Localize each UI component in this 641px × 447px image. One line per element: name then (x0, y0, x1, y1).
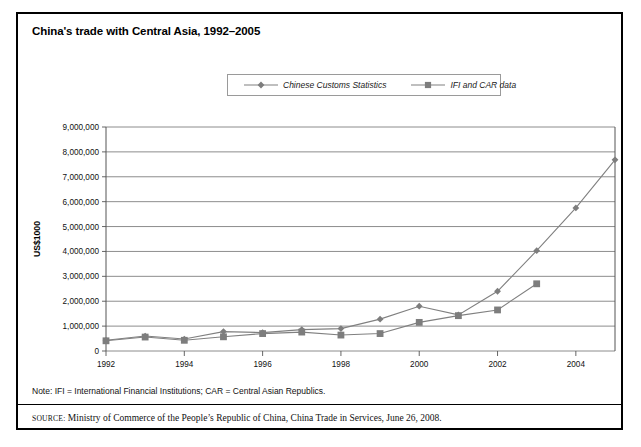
x-tick-label: 1992 (97, 360, 116, 367)
source-text: Ministry of Commerce of the People’s Rep… (68, 413, 442, 423)
legend-marker-square-icon (411, 80, 445, 90)
chart-plot-container: 01,000,0002,000,0003,000,0004,000,0005,0… (18, 102, 621, 367)
y-tick-label: 4,000,000 (63, 247, 100, 256)
x-tick-label: 2002 (488, 360, 507, 367)
legend-label-ifi-car: IFI and CAR data (450, 80, 516, 90)
legend-marker-diamond-icon (244, 80, 278, 90)
y-tick-label: 1,000,000 (63, 322, 100, 331)
figure-note: Note: IFI = International Financial Inst… (32, 386, 325, 396)
line-chart: 01,000,0002,000,0003,000,0004,000,0005,0… (18, 102, 621, 367)
x-tick-label: 1998 (332, 360, 351, 367)
footer-divider (18, 404, 621, 405)
x-tick-label: 1994 (175, 360, 194, 367)
figure-panel: China's trade with Central Asia, 1992–20… (16, 12, 623, 430)
source-lead-label: source: (32, 414, 65, 423)
x-tick-label: 1996 (254, 360, 273, 367)
y-tick-label: 6,000,000 (63, 198, 100, 207)
y-tick-label: 8,000,000 (63, 148, 100, 157)
x-tick-label: 2004 (567, 360, 586, 367)
figure-source: source: Ministry of Commerce of the Peop… (32, 413, 442, 423)
y-tick-label: 3,000,000 (63, 272, 100, 281)
series-ifi-car (103, 280, 540, 344)
y-axis-title: US$1000 (32, 221, 42, 257)
x-tick-label: 2000 (410, 360, 429, 367)
series-chinese-customs (103, 156, 619, 343)
y-tick-label: 0 (94, 347, 99, 356)
y-tick-label: 5,000,000 (63, 223, 100, 232)
y-tick-label: 9,000,000 (63, 123, 100, 132)
figure-title: China's trade with Central Asia, 1992–20… (32, 25, 260, 37)
legend-item-chinese-customs: Chinese Customs Statistics (244, 80, 386, 90)
y-tick-label: 2,000,000 (63, 297, 100, 306)
chart-legend: Chinese Customs Statistics IFI and CAR d… (227, 74, 501, 96)
legend-label-chinese-customs: Chinese Customs Statistics (283, 80, 386, 90)
legend-item-ifi-car: IFI and CAR data (411, 80, 516, 90)
y-tick-label: 7,000,000 (63, 173, 100, 182)
